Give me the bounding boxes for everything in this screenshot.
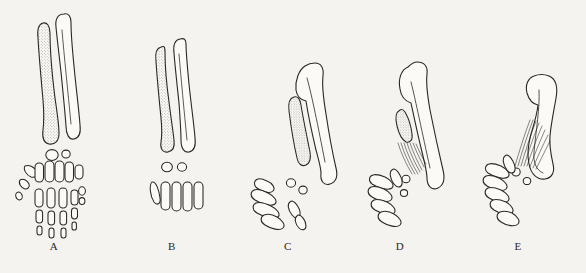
panel-label-e: E	[508, 240, 528, 252]
panel-a-phalanx	[61, 228, 66, 238]
panel-a-phalanx	[48, 211, 55, 225]
panel-a-phalanx	[35, 189, 43, 207]
panel-a-phalanx	[47, 188, 55, 208]
panel-c-carpal	[286, 179, 295, 187]
panel-label-c: C	[278, 240, 298, 252]
panel-a-metacarpal	[55, 161, 64, 182]
panel-d-carpal	[402, 175, 410, 183]
panel-a-phalanx	[72, 222, 76, 230]
panel-a-metacarpal	[65, 162, 74, 182]
panel-a-phalanx	[49, 228, 54, 238]
panel-a-phalanx	[71, 190, 78, 205]
panel-e-carpal	[523, 177, 531, 184]
anatomy-illustration	[0, 0, 586, 273]
panel-a-carpal	[62, 150, 70, 158]
panel-b-metacarpal	[183, 182, 192, 211]
panel-a-metacarpal	[35, 163, 44, 182]
panel-a-phalanx	[36, 210, 43, 223]
panel-a-metacarpal	[45, 161, 54, 182]
panel-a-phalanx	[37, 226, 42, 235]
panel-a-carpal	[46, 150, 58, 161]
figure-root: A B C D E	[0, 0, 586, 273]
panel-b-metacarpal	[194, 182, 203, 209]
panel-a-metacarpal	[75, 165, 83, 179]
panel-label-a: A	[44, 240, 64, 252]
panel-label-d: D	[390, 240, 410, 252]
panel-a-phalanx	[79, 187, 86, 195]
panel-a-phalanx	[60, 211, 67, 225]
panel-a-phalanx	[59, 188, 67, 208]
panel-d-carpal	[400, 190, 407, 197]
panel-b-metacarpal	[172, 182, 181, 211]
panel-b-metacarpal	[161, 182, 170, 210]
panel-a-phalanx	[72, 208, 78, 219]
panel-c-carpal	[299, 186, 307, 194]
panel-b-carpal	[162, 162, 173, 172]
panel-label-b: B	[162, 240, 182, 252]
panel-a-phalanx	[79, 198, 85, 205]
panel-b-carpal	[177, 163, 186, 171]
